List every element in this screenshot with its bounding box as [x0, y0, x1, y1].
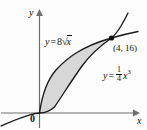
curve-label-cubic-exponent: 3 [128, 68, 131, 75]
x-axis-label: x [137, 116, 141, 126]
intersection-point-marker [109, 35, 114, 40]
curve-label-cubic: y=14x3 [103, 66, 131, 84]
y-axis-label: y [29, 8, 33, 18]
y-axis-arrow [36, 9, 43, 16]
figure-canvas [0, 0, 147, 130]
curve-label-sqrt-radicand: x [67, 35, 72, 47]
curve-label-cubic-equals: = [107, 70, 115, 81]
figure-region-between-curves: y x 0 y=8√x (4, 16) y=14x3 [0, 0, 147, 130]
curve-label-sqrt-equals: = [49, 36, 57, 47]
curve-label-sqrt: y=8√x [45, 37, 72, 47]
intersection-point-label: (4, 16) [113, 44, 137, 53]
fraction-numerator: 1 [116, 66, 122, 74]
origin-label: 0 [30, 114, 35, 124]
fraction-denominator: 4 [116, 74, 122, 83]
fraction-one-quarter: 14 [116, 66, 122, 84]
